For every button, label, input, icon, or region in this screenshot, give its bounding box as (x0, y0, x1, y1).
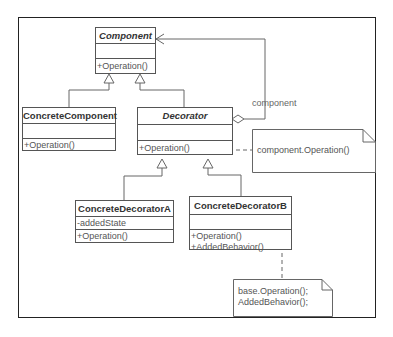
class-attributes (96, 44, 155, 59)
operation: +Operation() (77, 231, 173, 242)
class-name: Component (96, 28, 155, 44)
note-text-line: base.Operation(); (238, 286, 338, 297)
aggregation-role-label: component (252, 98, 297, 108)
operation: +Operation() (24, 140, 115, 151)
generalization-arrow-icon (157, 159, 167, 168)
aggregation-diamond-icon (232, 115, 244, 123)
class-name: ConcreteDecoratorA (76, 201, 173, 217)
operation: +Operation() (97, 61, 155, 72)
class-name: ConcreteComponent (23, 108, 115, 124)
note-text-line: AddedBehavior(); (238, 297, 338, 308)
class-concrete-decorator-a[interactable]: ConcreteDecoratorA -addedState +Operatio… (75, 200, 174, 243)
class-attributes (138, 125, 232, 141)
class-name: ConcreteDecoratorB (190, 197, 291, 215)
attribute: -addedState (77, 217, 173, 229)
class-attributes (190, 215, 291, 230)
generalization-arrow-icon (104, 74, 114, 83)
class-attributes (23, 124, 115, 139)
operation: +Operation() (191, 231, 291, 242)
generalization-arrow-icon (203, 159, 213, 168)
operation: +AddedBehavior() (191, 242, 291, 253)
note-decorator-operation: component.Operation() (252, 129, 376, 173)
note-decorator-b-operation: base.Operation(); AddedBehavior(); (233, 279, 333, 317)
note-text: component.Operation() (257, 145, 381, 156)
class-concrete-component[interactable]: ConcreteComponent +Operation() (22, 107, 116, 151)
generalization-arrow-icon (135, 74, 145, 83)
class-decorator[interactable]: Decorator +Operation() (137, 107, 233, 155)
class-component[interactable]: Component +Operation() (95, 27, 156, 74)
operation: +Operation() (139, 143, 232, 154)
class-name: Decorator (138, 108, 232, 125)
class-concrete-decorator-b[interactable]: ConcreteDecoratorB +Operation() +AddedBe… (189, 196, 292, 250)
